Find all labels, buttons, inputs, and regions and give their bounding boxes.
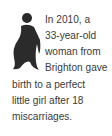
text-line-1: In 2010, a bbox=[45, 12, 90, 26]
text-line-4: Brighton gave bbox=[45, 60, 107, 74]
text-line-6: little girl after 18 bbox=[12, 93, 83, 107]
text-line-2: 33-year-old bbox=[45, 28, 96, 42]
text-line-5: birth to a perfect bbox=[12, 77, 85, 91]
text-line-3: woman from bbox=[45, 44, 101, 58]
text-line-7: miscarriages. bbox=[12, 109, 72, 123]
pregnant-woman-icon bbox=[10, 12, 42, 70]
